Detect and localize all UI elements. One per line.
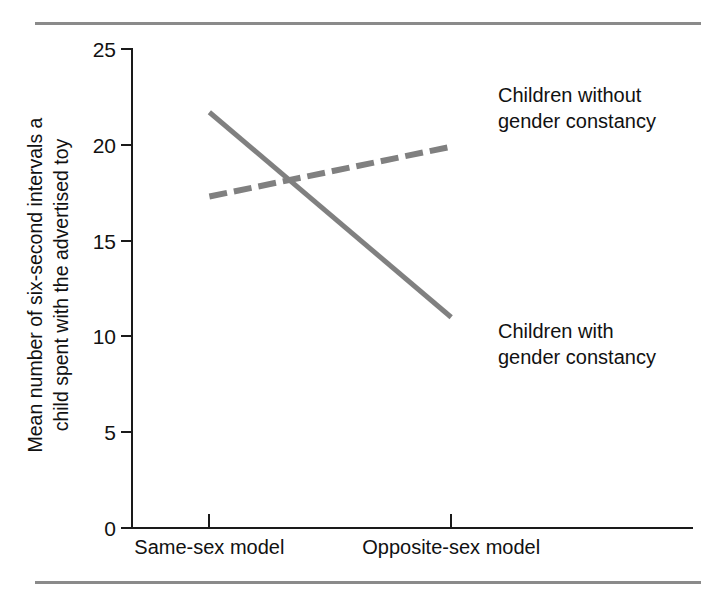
- annotation-children-without-gender-constancy: Children without gender constancy: [498, 82, 656, 134]
- annotation-without-line-1: Children without: [498, 82, 656, 108]
- figure-canvas: Mean number of six-second intervals a ch…: [0, 0, 724, 599]
- annotation-with-line-2: gender constancy: [498, 344, 656, 370]
- annotation-with-line-1: Children with: [498, 318, 656, 344]
- series-line-children-with-gender-constancy: [209, 112, 451, 317]
- annotation-without-line-2: gender constancy: [498, 108, 656, 134]
- series-line-children-without-gender-constancy: [209, 147, 451, 197]
- annotation-children-with-gender-constancy: Children with gender constancy: [498, 318, 656, 370]
